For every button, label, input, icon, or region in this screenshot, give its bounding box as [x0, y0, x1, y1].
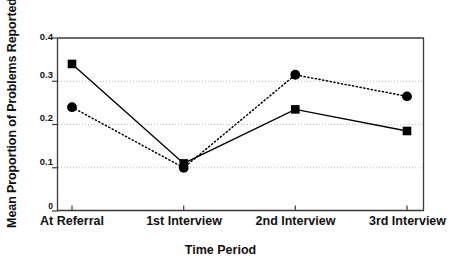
- x-tick-label-3rd-interview: 3rd Interview: [352, 214, 451, 228]
- x-tick-label-1st-interview: 1st Interview: [131, 214, 237, 228]
- series-square: [68, 60, 412, 168]
- marker-square: [291, 105, 300, 114]
- data-series-layer: [67, 60, 412, 173]
- marker-circle: [290, 70, 300, 80]
- x-tick-label-at-referral: At Referral: [22, 214, 122, 228]
- marker-circle: [179, 163, 189, 173]
- marker-square: [68, 60, 77, 69]
- x-axis-title: Time Period: [0, 243, 441, 257]
- y-axis-ticks: [52, 38, 58, 211]
- x-tick-label-2nd-interview: 2nd Interview: [240, 214, 351, 228]
- marker-circle: [402, 91, 412, 101]
- gridlines: [58, 81, 424, 168]
- marker-square: [403, 127, 412, 136]
- marker-circle: [67, 102, 77, 112]
- line-square: [72, 64, 407, 163]
